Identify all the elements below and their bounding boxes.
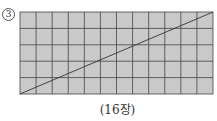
tile-count-caption: (16장) (0, 100, 217, 117)
